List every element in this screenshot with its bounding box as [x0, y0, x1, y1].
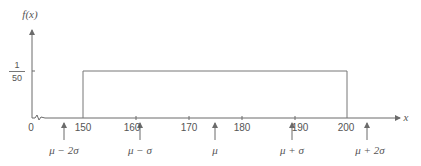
x-tick-label: 150: [75, 122, 92, 133]
x-tick-label: 160: [124, 122, 141, 133]
density-curve: [83, 71, 347, 118]
uniform-density-chart: [0, 0, 421, 166]
annotation-arrows: [64, 123, 367, 140]
x-axis-break: [32, 115, 45, 120]
x-tick-label: 0: [28, 122, 34, 133]
x-tick-label: 200: [338, 122, 355, 133]
y-axis-label: f(x): [22, 8, 37, 20]
y-tick-label: 1 50: [9, 60, 25, 83]
x-tick-label: 190: [292, 122, 309, 133]
x-tick-label: 170: [181, 122, 198, 133]
annotation-label: μ − σ: [128, 144, 152, 156]
x-axis-label: x: [404, 111, 409, 123]
x-tick-label: 180: [234, 122, 251, 133]
annotation-label: μ − 2σ: [49, 144, 78, 156]
annotation-label: μ + 2σ: [355, 144, 384, 156]
annotation-label: μ + σ: [280, 144, 304, 156]
annotation-label: μ: [212, 144, 218, 156]
